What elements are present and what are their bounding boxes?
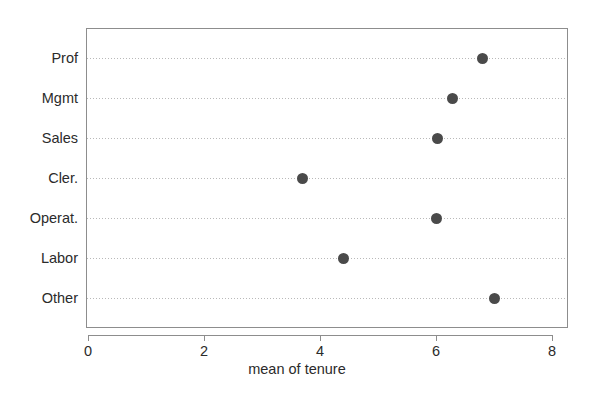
data-point xyxy=(338,253,349,264)
data-point xyxy=(489,293,500,304)
y-axis-label-sales: Sales xyxy=(42,130,78,146)
data-point xyxy=(477,53,488,64)
y-axis-label-mgmt: Mgmt xyxy=(42,90,78,106)
y-axis-label-other: Other xyxy=(42,290,78,306)
x-tick-6 xyxy=(436,335,437,341)
y-axis-label-cler: Cler. xyxy=(48,170,78,186)
x-tick-label-8: 8 xyxy=(548,343,556,359)
x-tick-label-6: 6 xyxy=(432,343,440,359)
y-axis-label-operat: Operat. xyxy=(30,210,78,226)
x-tick-label-0: 0 xyxy=(84,343,92,359)
dot-plot-figure: ProfMgmtSalesCler.Operat.LaborOther 0246… xyxy=(0,0,594,397)
x-tick-label-2: 2 xyxy=(200,343,208,359)
gridline-labor xyxy=(87,258,567,259)
y-axis-label-labor: Labor xyxy=(41,250,78,266)
data-point xyxy=(297,173,308,184)
x-axis-title: mean of tenure xyxy=(0,361,594,377)
x-tick-0 xyxy=(88,335,89,341)
x-tick-8 xyxy=(552,335,553,341)
gridline-sales xyxy=(87,138,567,139)
data-point xyxy=(447,93,458,104)
gridline-operat xyxy=(87,218,567,219)
gridline-cler xyxy=(87,178,567,179)
gridline-prof xyxy=(87,58,567,59)
x-tick-2 xyxy=(204,335,205,341)
data-point xyxy=(431,213,442,224)
y-axis-label-prof: Prof xyxy=(51,50,78,66)
y-axis-category-labels: ProfMgmtSalesCler.Operat.LaborOther xyxy=(0,0,78,397)
x-tick-label-4: 4 xyxy=(316,343,324,359)
gridline-mgmt xyxy=(87,98,567,99)
data-point xyxy=(432,133,443,144)
x-tick-4 xyxy=(320,335,321,341)
